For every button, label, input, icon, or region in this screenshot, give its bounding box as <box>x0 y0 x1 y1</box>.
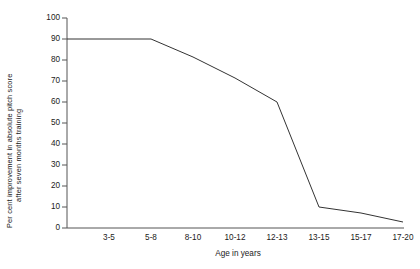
x-axis-title: Age in years <box>0 249 420 258</box>
x-tick-label: 8-10 <box>185 233 201 242</box>
chart-figure: Per cent improvement in absolute pitch s… <box>0 0 420 269</box>
x-tick-label: 15-17 <box>351 233 372 242</box>
plot-area <box>0 0 420 269</box>
x-axis-title-text: Age in years <box>215 249 261 258</box>
x-tick-label: 13-15 <box>309 233 330 242</box>
y-tick-marks <box>62 18 67 228</box>
data-line-series-1 <box>67 39 403 222</box>
x-tick-label: 10-12 <box>225 233 246 242</box>
x-tick-label: 17-20 <box>393 233 414 242</box>
x-tick-label: 12-13 <box>267 233 288 242</box>
x-tick-label: 3-5 <box>103 233 115 242</box>
x-tick-label: 5-8 <box>145 233 157 242</box>
